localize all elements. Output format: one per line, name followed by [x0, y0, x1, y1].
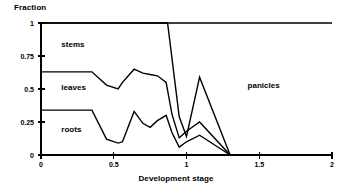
series-label-stems: stems [61, 40, 84, 49]
series-label-roots: roots [61, 125, 81, 134]
y-tick-label: 1 [0, 20, 34, 27]
x-tick-label: 2 [330, 161, 334, 168]
x-tick-label: 1.5 [254, 161, 264, 168]
series-label-panicles: panicles [248, 81, 280, 90]
x-axis-title: Development stage [0, 174, 352, 183]
x-tick-label: 0.5 [109, 161, 119, 168]
y-tick-label: 0 [0, 152, 34, 159]
series-label-leaves: leaves [61, 83, 85, 92]
x-tick-label: 0 [39, 161, 43, 168]
y-tick-label: 0.5 [0, 86, 34, 93]
x-tick-label: 1 [185, 161, 189, 168]
fraction-development-stage-chart: Fraction 00.250.50.751 00.511.52 stemsle… [0, 0, 352, 193]
y-tick-label: 0.75 [0, 53, 34, 60]
y-tick-label: 0.25 [0, 119, 34, 126]
plot-area [0, 0, 352, 193]
